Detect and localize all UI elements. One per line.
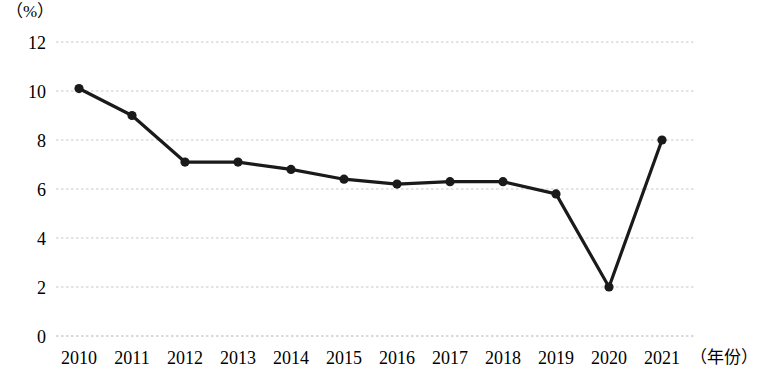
data-point-2016 <box>392 180 401 189</box>
x-tick-label-2016: 2016 <box>379 347 415 369</box>
gridlines <box>56 42 696 336</box>
x-tick-label-2013: 2013 <box>220 347 256 369</box>
x-tick-label-2015: 2015 <box>326 347 362 369</box>
x-tick-label-2014: 2014 <box>273 347 309 369</box>
x-tick-label-2012: 2012 <box>167 347 203 369</box>
x-tick-label-2017: 2017 <box>432 347 468 369</box>
data-point-2015 <box>339 175 348 184</box>
data-point-2013 <box>233 157 242 166</box>
data-point-2011 <box>127 111 136 120</box>
x-tick-label-2018: 2018 <box>485 347 521 369</box>
data-line-series-1 <box>79 89 662 287</box>
data-point-2021 <box>657 135 666 144</box>
data-point-2014 <box>286 165 295 174</box>
x-axis-title: （年份） <box>690 347 758 369</box>
x-tick-label-2011: 2011 <box>114 347 149 369</box>
line-chart-figure: （%） 12 10 8 6 4 2 0 2010 2011 2012 2013 … <box>0 0 761 374</box>
x-tick-label-2021: 2021 <box>644 347 680 369</box>
data-point-2018 <box>498 177 507 186</box>
x-tick-label-2010: 2010 <box>61 347 97 369</box>
x-tick-label-2019: 2019 <box>538 347 574 369</box>
data-point-2019 <box>551 189 560 198</box>
data-point-2020 <box>604 282 613 291</box>
data-point-2017 <box>445 177 454 186</box>
data-point-2012 <box>180 157 189 166</box>
x-tick-label-2020: 2020 <box>591 347 627 369</box>
chart-plot-area <box>0 0 761 374</box>
data-markers-series-1 <box>74 84 666 292</box>
data-point-2010 <box>74 84 83 93</box>
